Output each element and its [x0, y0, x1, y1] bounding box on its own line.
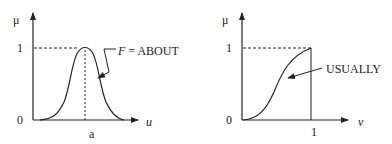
about-panel: μ u 1 0 a F = ABOUT: [13, 13, 179, 141]
y-tick-1: 1: [226, 41, 232, 55]
x-axis-label: u: [146, 115, 152, 129]
y-tick-0: 0: [226, 113, 232, 127]
y-tick-1: 1: [17, 41, 23, 55]
y-axis-label: μ: [13, 13, 19, 27]
curve-label-about: F = ABOUT: [117, 44, 179, 58]
x-tick-a: a: [89, 127, 95, 141]
bell-curve: [40, 48, 124, 121]
membership-functions-diagram: μ u 1 0 a F = ABOUT μ v 1 0 1 USUALLY: [0, 0, 392, 144]
x-axis-label: v: [358, 115, 364, 129]
label-leader: [104, 49, 116, 72]
curve-label-usually: USUALLY: [326, 62, 381, 76]
y-axis-label: μ: [222, 13, 228, 27]
label-arrow: [288, 68, 322, 78]
y-tick-0: 0: [17, 113, 23, 127]
s-curve: [243, 48, 311, 120]
usually-panel: μ v 1 0 1 USUALLY: [222, 13, 381, 139]
x-tick-1: 1: [311, 125, 317, 139]
